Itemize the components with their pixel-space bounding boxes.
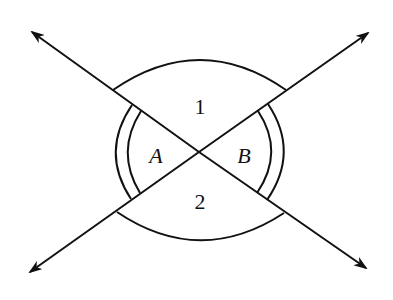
angle-b-double-arc xyxy=(257,104,284,200)
arrow-up-right-icon xyxy=(199,33,368,152)
diagram-canvas: 1 2 A B xyxy=(0,0,393,300)
line-2 xyxy=(30,33,368,272)
angle-1-arc xyxy=(113,60,286,90)
label-a: A xyxy=(147,143,163,168)
label-1: 1 xyxy=(195,94,206,119)
label-b: B xyxy=(237,143,250,168)
line-1 xyxy=(32,32,366,268)
label-2: 2 xyxy=(195,189,206,214)
intersecting-lines-diagram: 1 2 A B xyxy=(0,0,393,300)
arrow-up-left-icon xyxy=(32,32,199,152)
angle-2-arc xyxy=(117,212,284,240)
arrow-down-right-icon xyxy=(199,152,366,268)
angle-a-double-arc xyxy=(116,105,141,199)
arrow-down-left-icon xyxy=(30,152,199,272)
